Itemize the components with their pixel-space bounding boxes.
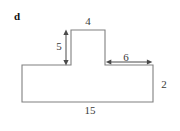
stem-height-label: 5 — [53, 41, 65, 52]
bottom-width-label: 15 — [78, 105, 102, 116]
base-height-label: 2 — [158, 79, 170, 90]
top-width-label: 4 — [79, 16, 97, 27]
right-arm-width-label: 6 — [120, 52, 132, 63]
geometry-figure: d 4 5 6 2 15 — [0, 0, 180, 131]
part-letter-label: d — [10, 11, 24, 22]
t-shape-outline — [22, 30, 153, 102]
